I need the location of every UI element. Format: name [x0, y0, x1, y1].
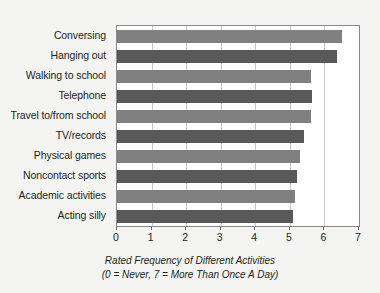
x-axis: 01234567 [116, 226, 359, 246]
bar [117, 170, 297, 183]
bar [117, 50, 337, 63]
x-tick-label: 2 [175, 231, 195, 243]
category-label: Hanging out [0, 45, 112, 65]
bar-row [117, 46, 359, 66]
bar-row [117, 166, 359, 186]
caption-line-1: Rated Frequency of Different Activities [0, 254, 380, 268]
chart-figure: ConversingHanging outWalking to schoolTe… [0, 0, 380, 293]
x-tick-label: 6 [313, 231, 333, 243]
bar [117, 210, 293, 223]
bar-row [117, 26, 359, 46]
bar [117, 30, 342, 43]
bar-row [117, 86, 359, 106]
category-label: Travel to/from school [0, 105, 112, 125]
caption-line-2: (0 = Never, 7 = More Than Once A Day) [0, 268, 380, 282]
bar [117, 190, 295, 203]
x-tick-label: 0 [106, 231, 126, 243]
bar-series [117, 26, 359, 226]
bar-row [117, 146, 359, 166]
category-label: Conversing [0, 25, 112, 45]
category-label: Physical games [0, 145, 112, 165]
bar-row [117, 66, 359, 86]
bar-row [117, 186, 359, 206]
category-label: Acting silly [0, 205, 112, 225]
x-tick-mark [254, 226, 255, 230]
bar [117, 110, 311, 123]
bar [117, 70, 311, 83]
x-tick-mark [151, 226, 152, 230]
bar-row [117, 106, 359, 126]
bar-row [117, 126, 359, 146]
category-label: Walking to school [0, 65, 112, 85]
x-tick-mark [358, 226, 359, 230]
bar-row [117, 206, 359, 226]
category-label: Academic activities [0, 185, 112, 205]
category-label: Telephone [0, 85, 112, 105]
category-label: TV/records [0, 125, 112, 145]
category-axis-labels: ConversingHanging outWalking to schoolTe… [0, 25, 112, 225]
x-tick-mark [289, 226, 290, 230]
bar [117, 150, 300, 163]
bar [117, 90, 312, 103]
x-tick-mark [116, 226, 117, 230]
x-tick-label: 7 [348, 231, 368, 243]
chart-caption: Rated Frequency of Different Activities … [0, 254, 380, 281]
x-tick-label: 5 [279, 231, 299, 243]
x-tick-mark [185, 226, 186, 230]
bar [117, 130, 304, 143]
x-tick-label: 3 [210, 231, 230, 243]
category-label: Noncontact sports [0, 165, 112, 185]
x-tick-label: 4 [244, 231, 264, 243]
plot-area [116, 25, 360, 227]
x-tick-mark [323, 226, 324, 230]
x-tick-mark [220, 226, 221, 230]
x-tick-label: 1 [141, 231, 161, 243]
